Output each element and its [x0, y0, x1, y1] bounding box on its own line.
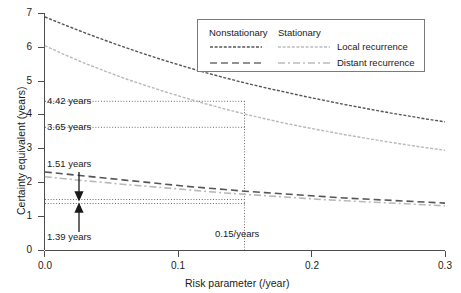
x-axis-title: Risk parameter (/year): [185, 277, 289, 289]
legend-row-label-local-recurrence: Local recurrence: [337, 41, 408, 52]
x-tick-label-3: 0.3: [425, 260, 461, 271]
legend-header-nonstationary: Nonstationary: [209, 27, 268, 38]
chart-figure: 7 6 5 4 3 2 1 0 0.0 0.1 0.2 0.3 Certaint…: [0, 0, 461, 293]
x-tick-label-1: 0.1: [158, 260, 198, 271]
arrow-up-head: [75, 204, 82, 212]
x-tick-label-0: 0.0: [25, 260, 65, 271]
legend-row-label-distant-recurrence: Distant recurrence: [337, 57, 415, 68]
y-tick-label-7: 7: [6, 7, 32, 18]
x-tick-label-2: 0.2: [292, 260, 332, 271]
y-axis-ticks: [38, 14, 44, 251]
y-axis-title: Certainty equivalent (years): [15, 87, 27, 215]
annotation-3-65-years: 3.65 years: [47, 121, 91, 132]
arrow-down-head: [75, 192, 82, 200]
annotation-0-15-years: 0.15/years: [215, 228, 259, 239]
x-axis-ticks: [45, 251, 446, 257]
legend-header-stationary: Stationary: [278, 27, 321, 38]
y-tick-label-6: 6: [6, 41, 32, 52]
y-tick-label-5: 5: [6, 75, 32, 86]
y-tick-label-0: 0: [6, 244, 32, 255]
annotation-1-51-years: 1.51 years: [47, 158, 91, 169]
annotation-1-39-years: 1.39 years: [47, 231, 91, 242]
annotation-4-42-years: 4.42 years: [47, 95, 91, 106]
